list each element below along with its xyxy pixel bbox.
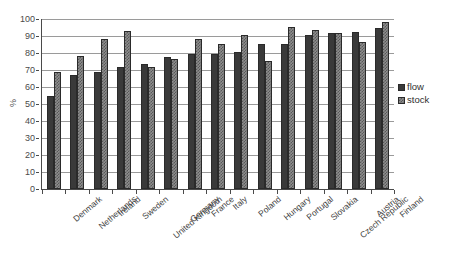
bar-stock [101, 39, 108, 189]
y-axis-tick-mark [36, 189, 39, 190]
bar-group [112, 19, 135, 189]
legend-label: stock [407, 95, 429, 105]
bar-group [65, 19, 88, 189]
legend-swatch-icon [398, 84, 405, 91]
y-axis-tick-mark [36, 104, 39, 105]
bar-stock [382, 22, 389, 189]
y-axis-tick-mark [36, 53, 39, 54]
bar-flow [258, 44, 265, 189]
bar-stock [335, 33, 342, 189]
bar-stock [265, 61, 272, 189]
caption-strip [0, 258, 456, 266]
y-axis-tick-label: 30 [25, 134, 35, 143]
bar-stock [312, 30, 319, 189]
bar-group [277, 19, 300, 189]
bar-stock [359, 42, 366, 189]
y-axis-tick-mark [36, 172, 39, 173]
y-axis-tick-mark [36, 70, 39, 71]
bar-flow [328, 33, 335, 189]
bar-flow [164, 57, 171, 189]
y-axis-tick-label: 80 [25, 49, 35, 58]
y-axis-tick-mark [36, 155, 39, 156]
legend-label: flow [407, 82, 424, 92]
y-axis-tick-labels: 1009080706050403020100 [0, 19, 39, 190]
y-axis-tick-label: 0 [30, 185, 35, 194]
bar-group [42, 19, 65, 189]
y-axis-tick-label: 100 [20, 15, 35, 24]
y-axis-tick-label: 10 [25, 168, 35, 177]
y-axis-tick-label: 70 [25, 66, 35, 75]
bar-stock [54, 72, 61, 189]
bar-flow [117, 67, 124, 189]
y-axis-tick-mark [36, 121, 39, 122]
y-axis-tick-label: 40 [25, 117, 35, 126]
bar-group [206, 19, 229, 189]
bar-group [183, 19, 206, 189]
bar-flow [211, 54, 218, 189]
x-axis-category-label: Denmark [71, 194, 104, 224]
bar-group [324, 19, 347, 189]
bar-stock [171, 59, 178, 189]
y-axis-tick-label: 50 [25, 100, 35, 109]
bar-stock [195, 39, 202, 189]
x-axis-category-labels: DenmarkNetherlandsIrelandSwedenUnited Ki… [42, 194, 402, 256]
y-axis-tick-mark [36, 138, 39, 139]
y-axis-tick-mark [36, 87, 39, 88]
bar-group [300, 19, 323, 189]
bar-flow [94, 72, 101, 189]
y-axis-tick-label: 20 [25, 151, 35, 160]
bar-flow [375, 28, 382, 189]
bar-flow [234, 52, 241, 189]
bar-stock [124, 31, 131, 189]
bar-flow [188, 54, 195, 189]
bar-stock [148, 67, 155, 189]
legend-item: stock [398, 95, 454, 105]
y-axis-tick-label: 60 [25, 83, 35, 92]
y-axis-tick-mark [36, 36, 39, 37]
x-axis-category-label: Poland [257, 194, 284, 219]
bar-group [253, 19, 276, 189]
bar-group [230, 19, 253, 189]
bars-layer [42, 19, 394, 189]
bar-group [136, 19, 159, 189]
bar-flow [70, 75, 77, 189]
bar-stock [218, 44, 225, 189]
bar-group [159, 19, 182, 189]
bar-stock [77, 56, 84, 189]
y-axis-tick-label: 90 [25, 32, 35, 41]
bar-stock [288, 27, 295, 189]
legend-item: flow [398, 82, 454, 92]
x-axis-category-label: Sweden [140, 194, 170, 221]
bar-flow [305, 35, 312, 189]
bar-flow [47, 96, 54, 190]
x-axis-category-label: Italy [231, 194, 249, 212]
chart-legend: flowstock [398, 82, 454, 108]
bar-group [347, 19, 370, 189]
bar-flow [141, 64, 148, 189]
y-axis-tick-mark [36, 19, 39, 20]
legend-swatch-icon [398, 97, 405, 104]
bar-flow [352, 32, 359, 189]
bar-chart-figure: % 1009080706050403020100 DenmarkNetherla… [0, 0, 456, 266]
bar-stock [241, 35, 248, 189]
bar-group [89, 19, 112, 189]
bar-flow [281, 44, 288, 189]
bar-group [371, 19, 394, 189]
